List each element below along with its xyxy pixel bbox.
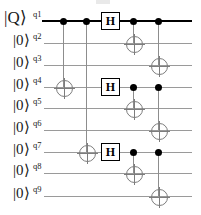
cnot-q4-q6-control-dot bbox=[155, 84, 162, 91]
cnot-q4-q6-target bbox=[151, 123, 168, 140]
wire-name-q9: q9 bbox=[33, 185, 42, 194]
cnot-q1-q3-control-dot bbox=[155, 18, 162, 25]
quantum-circuit-diagram: |Q⟩q1|0⟩q2|0⟩q3|0⟩q4|0⟩q5|0⟩q6|0⟩q7|0⟩q8… bbox=[0, 0, 201, 215]
ket-label-q5: |0⟩ bbox=[13, 98, 30, 113]
hadamard-q7: H bbox=[101, 143, 120, 161]
ket-label-q3: |0⟩ bbox=[13, 55, 30, 70]
cnot-q7-q9-control-dot bbox=[155, 149, 162, 156]
wire-q5 bbox=[44, 108, 192, 109]
wire-name-q7: q7 bbox=[33, 141, 42, 150]
wire-name-q1: q1 bbox=[33, 10, 42, 19]
cnot-q7-q8-control-dot bbox=[130, 149, 137, 156]
hadamard-q4: H bbox=[101, 78, 120, 96]
cnot-q1-q7-target bbox=[79, 145, 96, 162]
scan-artifact bbox=[96, 0, 110, 4]
wire-name-q4: q4 bbox=[33, 76, 42, 85]
cnot-q1-q7-connector bbox=[86, 21, 87, 152]
wire-q2 bbox=[44, 43, 192, 44]
wire-name-q3: q3 bbox=[33, 54, 42, 63]
wire-name-q2: q2 bbox=[33, 32, 42, 41]
ket-label-q8: |0⟩ bbox=[13, 163, 30, 178]
cnot-q1-q2-control-dot bbox=[130, 18, 137, 25]
cnot-q1-q7-control-dot bbox=[83, 18, 90, 25]
cnot-q4-q5-target bbox=[126, 101, 143, 118]
ket-label-q7: |0⟩ bbox=[13, 142, 30, 157]
ket-label-q4: |0⟩ bbox=[13, 77, 30, 92]
cnot-q1-q2-target bbox=[126, 36, 143, 53]
ket-label-q9: |0⟩ bbox=[13, 186, 30, 201]
wire-name-q5: q5 bbox=[33, 97, 42, 106]
wire-q8 bbox=[44, 173, 192, 174]
cnot-q1-q4-control-dot bbox=[60, 18, 67, 25]
cnot-q4-q5-control-dot bbox=[130, 84, 137, 91]
cnot-q1-q4-target bbox=[56, 80, 73, 97]
ket-label-q2: |0⟩ bbox=[13, 33, 30, 48]
ket-label-q1: |Q⟩ bbox=[4, 10, 27, 25]
ket-label-q6: |0⟩ bbox=[13, 120, 30, 135]
wire-name-q8: q8 bbox=[33, 162, 42, 171]
hadamard-q1: H bbox=[101, 12, 120, 30]
cnot-q1-q3-target bbox=[151, 58, 168, 75]
wire-name-q6: q6 bbox=[33, 119, 42, 128]
cnot-q7-q8-target bbox=[126, 166, 143, 183]
cnot-q7-q9-target bbox=[151, 189, 168, 206]
